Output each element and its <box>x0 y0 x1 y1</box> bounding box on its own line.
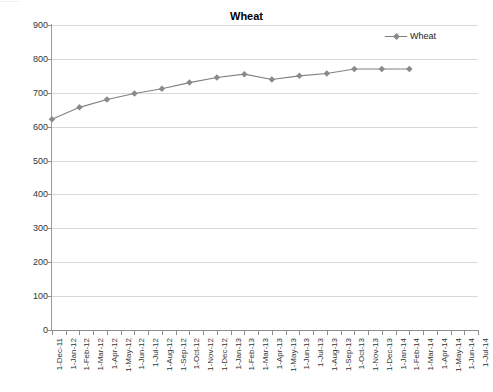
data-point-marker <box>186 79 193 86</box>
data-point-marker <box>76 104 83 111</box>
data-point-marker <box>214 74 221 81</box>
cut-off-text: ......... <box>0 0 19 3</box>
data-point-marker <box>324 70 331 77</box>
legend-label-wheat: Wheat <box>410 31 436 41</box>
data-point-marker <box>131 90 138 97</box>
chart-container: Wheat 0100200300400500600700800900 1-Dec… <box>0 7 493 392</box>
data-point-marker <box>379 66 386 73</box>
chart-legend: Wheat <box>385 31 436 41</box>
series-line <box>52 69 409 119</box>
data-point-marker <box>406 66 413 73</box>
cut-off-text-row: ......... <box>0 0 493 7</box>
data-point-marker <box>49 116 56 123</box>
series-wheat <box>0 7 493 392</box>
chart-page: ......... Wheat 010020030040050060070080… <box>0 0 493 392</box>
data-point-marker <box>159 85 166 92</box>
data-point-marker <box>351 66 358 73</box>
data-point-marker <box>241 71 248 78</box>
data-point-marker <box>296 73 303 80</box>
data-point-marker <box>104 96 111 103</box>
legend-marker-icon <box>385 32 407 41</box>
data-point-marker <box>269 76 276 83</box>
